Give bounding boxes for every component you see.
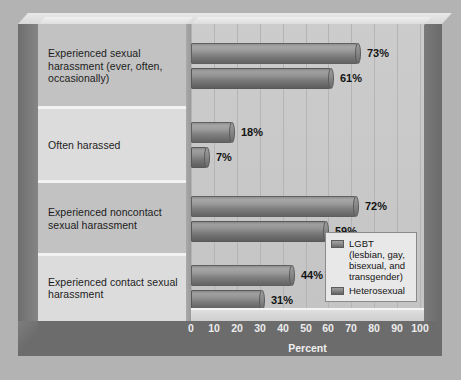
- gridline-100: [420, 24, 421, 321]
- legend-swatch-icon: [331, 287, 344, 295]
- bar-body: [191, 43, 358, 64]
- x-tick-20: 20: [231, 322, 243, 334]
- bar-value-label: 72%: [365, 200, 387, 212]
- x-tick-90: 90: [391, 322, 403, 334]
- category-label-4: Experienced contact sexual harassment: [38, 255, 186, 321]
- bar-body: [191, 196, 356, 217]
- x-tick-100: 100: [411, 322, 429, 334]
- bar-end-cap: [328, 68, 334, 89]
- bar-lgbt-3: [191, 196, 356, 217]
- bar-end-cap: [204, 147, 210, 168]
- bar-lgbt-4: [191, 265, 292, 286]
- bar-value-label: 73%: [367, 47, 389, 59]
- bar-end-cap: [229, 122, 235, 143]
- legend-swatch-icon: [331, 240, 344, 248]
- bar-value-label: 18%: [241, 126, 263, 138]
- x-axis-title: Percent: [191, 342, 424, 354]
- category-separator: [38, 253, 186, 256]
- bar-lgbt-1: [191, 43, 358, 64]
- legend-entry-label: Heterosexual: [349, 285, 405, 296]
- x-tick-60: 60: [322, 322, 334, 334]
- frame-base-corner: [18, 321, 38, 356]
- bar-value-label: 31%: [271, 294, 293, 306]
- frame-left-wall: [18, 24, 38, 321]
- category-label-text: Experienced sexual harassment (ever, oft…: [48, 47, 182, 85]
- frame-right-wall: [424, 24, 442, 356]
- bar-value-label: 61%: [340, 72, 362, 84]
- bar-value-label: 7%: [216, 151, 232, 163]
- chart-legend: LGBT (lesbian, gay, bisexual, and transg…: [325, 232, 417, 302]
- bar-end-cap: [355, 43, 361, 64]
- category-label-3: Experienced noncontact sexual harassment: [38, 182, 186, 255]
- bar-heterosexual-1: [191, 68, 331, 89]
- x-tick-0: 0: [188, 322, 194, 334]
- legend-entry-2[interactable]: Heterosexual: [331, 285, 411, 296]
- x-tick-50: 50: [300, 322, 312, 334]
- bar-heterosexual-3: [191, 221, 326, 242]
- bar-body: [191, 68, 331, 89]
- legend-entry-label: LGBT (lesbian, gay, bisexual, and transg…: [349, 238, 411, 282]
- x-tick-10: 10: [208, 322, 220, 334]
- plot-floor: [191, 310, 424, 321]
- category-separator: [38, 180, 186, 183]
- bar-end-cap: [353, 196, 359, 217]
- category-separator: [38, 106, 186, 109]
- bar-body: [191, 265, 292, 286]
- x-tick-30: 30: [254, 322, 266, 334]
- bar-heterosexual-2: [191, 147, 207, 168]
- x-tick-40: 40: [277, 322, 289, 334]
- legend-entry-1[interactable]: LGBT (lesbian, gay, bisexual, and transg…: [331, 238, 411, 282]
- bar-body: [191, 122, 232, 143]
- bar-value-label: 44%: [301, 269, 323, 281]
- category-label-2: Often harassed: [38, 108, 186, 182]
- chart-container: Experienced sexual harassment (ever, oft…: [0, 0, 461, 380]
- x-tick-70: 70: [345, 322, 357, 334]
- category-label-text: Experienced contact sexual harassment: [48, 276, 182, 301]
- category-label-text: Often harassed: [48, 139, 121, 152]
- category-label-panel: Experienced sexual harassment (ever, oft…: [38, 24, 186, 321]
- bar-body: [191, 221, 326, 242]
- x-axis-ticks: 0102030405060708090100: [191, 322, 424, 338]
- category-label-text: Experienced noncontact sexual harassment: [48, 206, 182, 231]
- bar-end-cap: [289, 265, 295, 286]
- bar-lgbt-2: [191, 122, 232, 143]
- category-label-1: Experienced sexual harassment (ever, oft…: [38, 24, 186, 108]
- x-tick-80: 80: [368, 322, 380, 334]
